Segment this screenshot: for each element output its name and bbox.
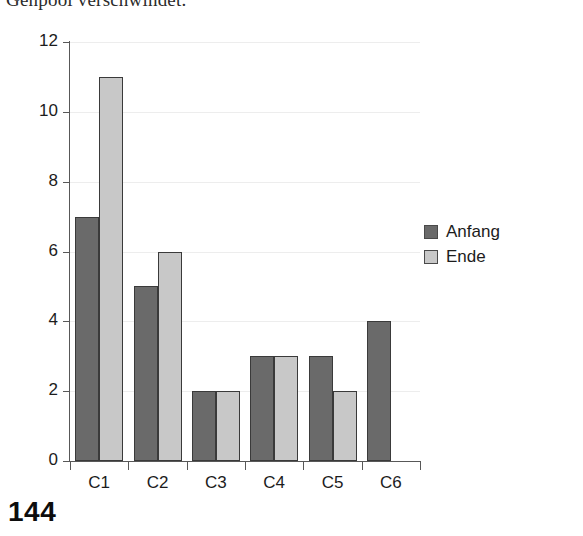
legend-swatch-anfang [424,225,438,239]
y-tick-label: 6 [0,241,58,261]
x-tick-mark [70,462,71,470]
y-tick-label-text: 6 [49,241,58,260]
y-tick-mark [63,252,70,253]
y-tick-label: 4 [0,310,58,330]
bar-c5-ende [333,391,357,461]
x-tick-mark [362,462,363,470]
y-tick-label: 8 [0,171,58,191]
gridline [70,42,420,43]
x-tick-label-c4: C4 [243,473,306,493]
bar-c2-anfang [134,286,158,461]
y-tick-mark [63,112,70,113]
y-tick-label-text: 8 [49,171,58,190]
x-tick-mark [128,462,129,470]
x-tick-mark [303,462,304,470]
bar-c3-ende [216,391,240,461]
legend-label-anfang: Anfang [446,222,500,242]
bar-c4-ende [274,356,298,461]
x-tick-mark [420,462,421,470]
x-tick-label-c1: C1 [68,473,131,493]
y-tick-mark [63,391,70,392]
x-tick-label-c6: C6 [359,473,422,493]
bar-chart: 024681012 C1C2C3C4C5C6 AnfangEnde [0,0,583,500]
y-tick-mark [63,182,70,183]
y-tick-label-text: 2 [49,380,58,399]
bar-c2-ende [158,252,182,462]
legend-label-ende: Ende [446,247,486,267]
bar-c1-anfang [75,217,99,461]
y-tick-label-text: 4 [49,310,58,329]
y-tick-label-text: 12 [39,31,58,50]
y-tick-label: 2 [0,380,58,400]
y-tick-mark [63,461,70,462]
plot-area [70,42,420,461]
x-tick-mark [187,462,188,470]
x-tick-label-c5: C5 [301,473,364,493]
legend-item-ende[interactable]: Ende [424,244,554,269]
x-tick-label-c3: C3 [184,473,247,493]
chart-legend: AnfangEnde [424,219,554,269]
x-tick-mark [245,462,246,470]
legend-item-anfang[interactable]: Anfang [424,219,554,244]
y-tick-mark [63,42,70,43]
bar-c1-ende [99,77,123,461]
x-tick-label-c2: C2 [126,473,189,493]
legend-swatch-ende [424,250,438,264]
page-number: 144 [8,496,56,528]
y-tick-label: 0 [0,450,58,470]
y-tick-mark [63,321,70,322]
y-tick-label-text: 10 [39,101,58,120]
bar-c5-anfang [309,356,333,461]
y-tick-label: 10 [0,101,58,121]
y-tick-label: 12 [0,31,58,51]
y-tick-label-text: 0 [49,450,58,469]
bar-c4-anfang [250,356,274,461]
bar-c6-anfang [367,321,391,461]
bar-c3-anfang [192,391,216,461]
